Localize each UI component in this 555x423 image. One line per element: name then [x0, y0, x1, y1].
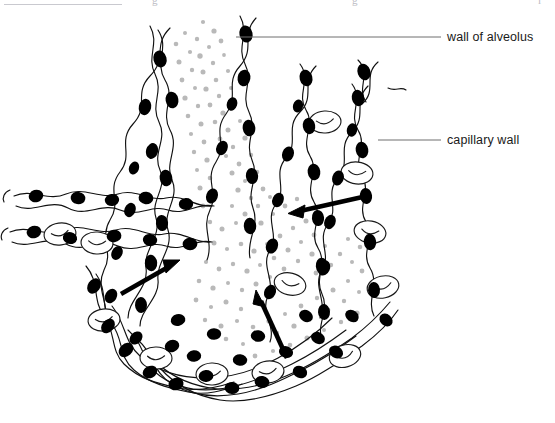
red-blood-cell [272, 269, 308, 298]
figure-canvas: g g l [0, 0, 555, 423]
red-blood-cell [340, 160, 374, 185]
label-wall-of-alveolus: wall of alveolus [447, 30, 533, 44]
alveolus-capillary-illustration [0, 0, 555, 423]
label-capillary-wall: capillary wall [447, 133, 519, 147]
alveolar-space-stipple [174, 20, 365, 359]
diffusion-arrow-upper-right [288, 196, 367, 218]
diffusion-arrow-bottom-center [253, 290, 287, 358]
